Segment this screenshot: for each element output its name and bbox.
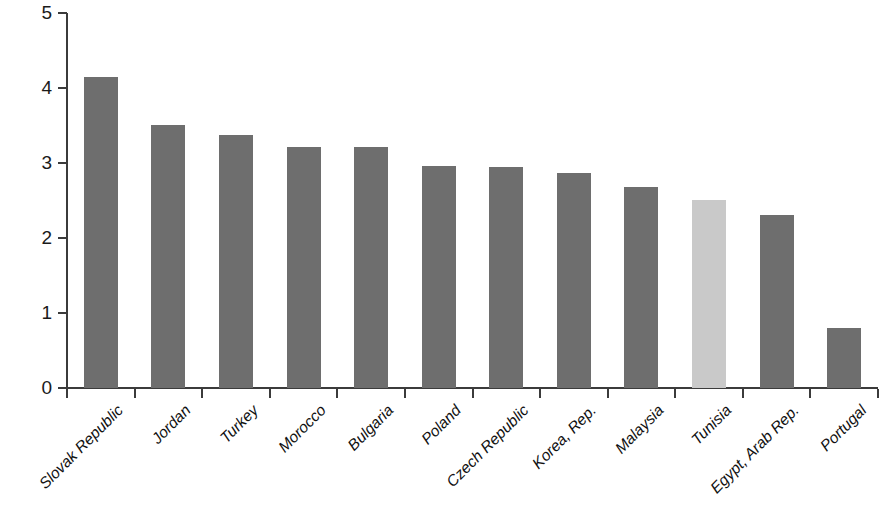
bar [760, 215, 794, 388]
bar-chart: 012345 Slovak RepublicJordanTurkeyMorocc… [0, 0, 882, 524]
y-axis-tick [58, 312, 67, 314]
x-axis-tick [877, 389, 879, 398]
x-axis-category-label: Jordan [149, 402, 193, 446]
bar [692, 200, 726, 388]
x-axis-tick [66, 389, 68, 398]
y-axis-tick-label: 3 [22, 153, 52, 172]
y-axis-tick [58, 87, 67, 89]
y-axis-tick [58, 237, 67, 239]
bar [84, 77, 118, 388]
x-axis-tick [472, 389, 474, 398]
x-axis-category-label: Morocco [276, 402, 329, 455]
x-axis-category-label: Portugal [817, 402, 869, 454]
x-axis-tick [336, 389, 338, 398]
bar [151, 125, 185, 388]
x-axis-category-label: Bulgaria [345, 402, 396, 453]
x-axis-tick [269, 389, 271, 398]
bar [489, 167, 523, 388]
x-axis-tick [404, 389, 406, 398]
x-axis-category-label: Poland [419, 402, 464, 447]
x-axis-category-label: Turkey [217, 402, 261, 446]
x-axis-category-label: Slovak Republic [36, 402, 126, 492]
y-axis-tick-label: 5 [22, 3, 52, 22]
y-axis-tick-label: 2 [22, 228, 52, 247]
y-axis-tick [58, 162, 67, 164]
bar [422, 166, 456, 388]
x-axis-tick [134, 389, 136, 398]
y-axis-tick-label: 4 [22, 78, 52, 97]
bar [219, 135, 253, 388]
x-axis-tick [539, 389, 541, 398]
bars-group [67, 0, 878, 388]
x-axis-category-label: Tunisia [689, 402, 734, 447]
bar [557, 173, 591, 388]
bar [624, 187, 658, 388]
y-axis-tick-label: 1 [22, 303, 52, 322]
x-axis-tick [607, 389, 609, 398]
x-axis-tick [674, 389, 676, 398]
y-axis-tick [58, 12, 67, 14]
bar [827, 328, 861, 388]
bar [354, 147, 388, 389]
x-axis-tick [742, 389, 744, 398]
x-axis-tick [809, 389, 811, 398]
x-axis-category-label: Korea, Rep. [529, 402, 598, 471]
bar [287, 147, 321, 389]
y-axis-tick-label: 0 [22, 378, 52, 397]
x-axis-tick [201, 389, 203, 398]
x-axis-category-label: Malaysia [612, 402, 666, 456]
